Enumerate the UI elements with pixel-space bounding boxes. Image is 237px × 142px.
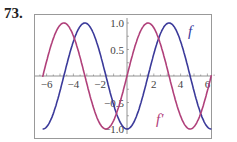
y-tick-label: 0.5 [110, 44, 124, 56]
chart-plot: −6−4−22461.00.5−0.5−1.0 f f' [0, 0, 237, 142]
x-tick-label: −2 [94, 78, 106, 90]
f-prime-label: f' [156, 111, 164, 127]
x-tick-label: 2 [151, 78, 157, 90]
f-label: f [188, 23, 194, 39]
x-tick-label: −6 [41, 78, 53, 90]
y-tick-label: 1.0 [110, 17, 124, 29]
x-tick-label: 4 [178, 78, 184, 90]
x-tick-label: −4 [68, 78, 80, 90]
